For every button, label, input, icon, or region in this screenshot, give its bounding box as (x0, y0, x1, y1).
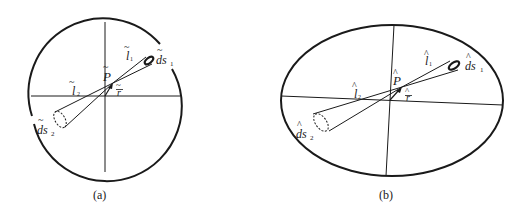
panel-a: P ~ r ~ l 1 ~ l 2 ~ ds 1 ~ ds 2 ~ (a) (28, 18, 181, 202)
svg-text:~: ~ (69, 76, 75, 87)
caption-a: (a) (93, 188, 106, 202)
ds2-surface (51, 109, 69, 130)
svg-text:ds: ds (156, 53, 167, 67)
svg-text:^: ^ (393, 67, 398, 78)
panel-b: P ^ r ^ l 1 ^ l 2 ^ ds 1 ^ ds 2 ^ (b) (281, 25, 503, 202)
svg-text:^: ^ (466, 51, 471, 62)
svg-text:1: 1 (429, 61, 432, 67)
circle-boundary-arc (28, 18, 160, 116)
label-l2: l 2 ^ (352, 80, 361, 101)
label-P: P ^ (392, 67, 401, 88)
svg-text:1: 1 (480, 66, 484, 74)
svg-text:2: 2 (77, 91, 80, 97)
cone2-edge-bottom (329, 87, 402, 131)
svg-text:~: ~ (124, 41, 130, 52)
svg-text:1: 1 (170, 60, 174, 68)
label-P: P ~ (102, 61, 111, 84)
label-ds2: ds 2 ~ (37, 114, 55, 138)
svg-text:ds: ds (37, 123, 48, 137)
cone2-edge-top (55, 83, 113, 112)
svg-text:2: 2 (51, 130, 55, 138)
label-r: r ^ (405, 86, 412, 103)
svg-text:~: ~ (157, 44, 163, 55)
svg-text:~: ~ (103, 61, 109, 72)
label-ds2: ds 2 ^ (296, 119, 314, 142)
label-ds1: ds 1 ~ (156, 44, 174, 68)
ds1-surface (143, 55, 154, 65)
label-l2: l 2 ~ (69, 76, 80, 98)
svg-text:^: ^ (424, 48, 429, 59)
svg-text:^: ^ (297, 119, 302, 130)
cone1-edge-bottom (402, 70, 458, 87)
svg-text:~: ~ (116, 80, 121, 90)
label-l1: l 1 ~ (124, 41, 133, 63)
svg-text:1: 1 (130, 56, 133, 62)
svg-text:2: 2 (310, 134, 314, 142)
ds2-surface (311, 111, 331, 134)
svg-text:^: ^ (352, 80, 357, 91)
caption-b: (b) (379, 188, 393, 202)
svg-text:~: ~ (38, 114, 44, 125)
label-r: r ~ (116, 80, 123, 98)
svg-text:2: 2 (358, 94, 361, 100)
label-l1: l 1 ^ (424, 48, 432, 68)
figure: P ~ r ~ l 1 ~ l 2 ~ ds 1 ~ ds 2 ~ (a) (0, 0, 522, 219)
